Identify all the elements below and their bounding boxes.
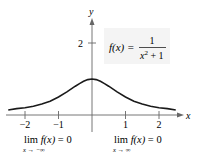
x-axis-arrow-icon xyxy=(177,113,184,118)
x-axis-label: x xyxy=(185,110,191,121)
y-axis-label: y xyxy=(88,6,94,17)
svg-text:x → ∞: x → ∞ xyxy=(112,146,131,153)
limit-right: lim f(x) = 0 x → ∞ xyxy=(112,134,162,153)
y-tick-label-2: 2 xyxy=(78,38,83,49)
y-axis-arrow-icon xyxy=(90,18,95,25)
svg-text:lim f(x) = 0: lim f(x) = 0 xyxy=(114,134,162,146)
formula-numerator: 1 xyxy=(150,35,155,46)
function-plot: x y −2 −1 1 2 2 f(x) = 1 x2 + 1 lim f(x)… xyxy=(0,0,197,162)
svg-text:lim f(x) = 0: lim f(x) = 0 xyxy=(24,134,72,146)
formula-denominator: x2 + 1 xyxy=(139,49,164,61)
svg-text:f(x) =: f(x) = xyxy=(109,41,134,54)
x-tick-label-neg2: −2 xyxy=(20,119,31,130)
x-tick-label-2: 2 xyxy=(157,119,162,130)
limit-left: lim f(x) = 0 x → −∞ xyxy=(22,134,72,153)
svg-text:x → −∞: x → −∞ xyxy=(22,146,45,153)
x-tick-label-1: 1 xyxy=(123,119,128,130)
x-tick-label-neg1: −1 xyxy=(53,119,64,130)
